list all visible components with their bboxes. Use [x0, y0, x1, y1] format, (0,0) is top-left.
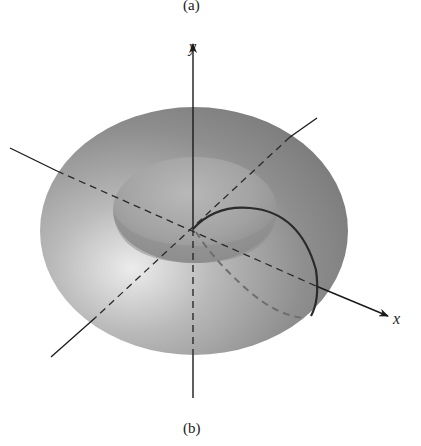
z-axis-top: [290, 118, 317, 137]
figure: (a) y x (b): [0, 0, 421, 446]
x-axis-label: x: [393, 310, 400, 328]
x-axis-left: [10, 148, 57, 171]
torus-diagram: [0, 0, 421, 446]
z-axis-bottom: [51, 318, 95, 357]
caption-a: (a): [183, 0, 200, 14]
caption-b: (b): [183, 420, 201, 437]
y-axis-label: y: [189, 38, 196, 56]
x-axis: [316, 286, 388, 316]
